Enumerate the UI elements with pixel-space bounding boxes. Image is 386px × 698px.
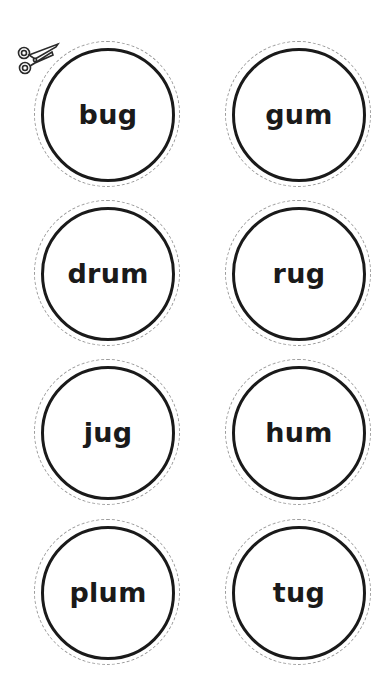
word-label: drum bbox=[67, 258, 148, 289]
word-circle: plum bbox=[41, 526, 175, 660]
word-circle: drum bbox=[41, 207, 175, 341]
word-card-rug: rug bbox=[225, 200, 371, 346]
word-card-tug: tug bbox=[225, 519, 371, 665]
word-label: bug bbox=[79, 99, 138, 130]
scissors-icon bbox=[16, 42, 60, 78]
word-card-hum: hum bbox=[225, 359, 371, 505]
word-card-plum: plum bbox=[34, 519, 180, 665]
word-circle: hum bbox=[232, 366, 366, 500]
word-card-gum: gum bbox=[225, 41, 371, 187]
word-circle: bug bbox=[41, 48, 175, 182]
word-label: tug bbox=[273, 577, 325, 608]
word-circle: tug bbox=[232, 526, 366, 660]
word-card-jug: jug bbox=[34, 359, 180, 505]
word-label: plum bbox=[69, 577, 146, 608]
word-label: rug bbox=[273, 258, 326, 289]
word-circle: jug bbox=[41, 366, 175, 500]
word-label: hum bbox=[265, 417, 332, 448]
word-card-drum: drum bbox=[34, 200, 180, 346]
word-label: gum bbox=[265, 99, 333, 130]
word-circle: rug bbox=[232, 207, 366, 341]
word-label: jug bbox=[84, 417, 133, 448]
word-circle: gum bbox=[232, 48, 366, 182]
